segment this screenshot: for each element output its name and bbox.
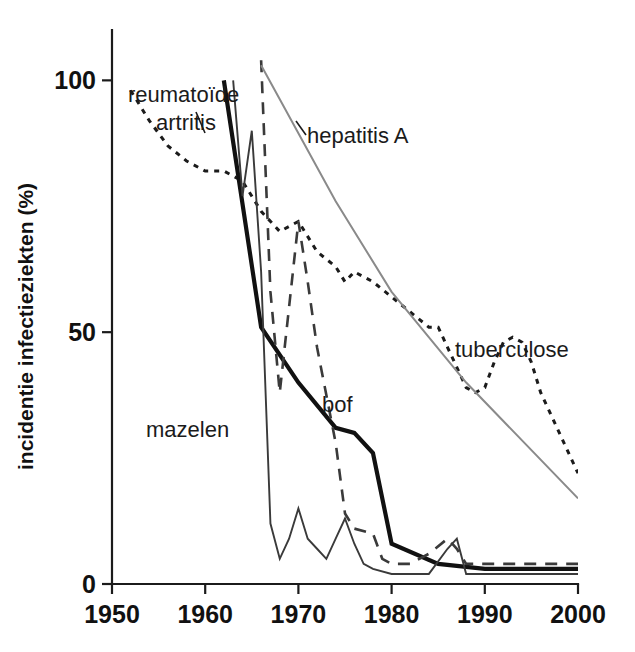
series-label-bof: bof [322,392,353,417]
x-tick-label: 2000 [550,600,606,628]
series-label-mazelen: mazelen [146,417,229,442]
series-label-reumatoide-line2: artritis [156,110,216,135]
y-tick-label: 0 [82,570,96,598]
series-label-tuberculose: tuberculose [455,337,569,362]
chart-svg: 050100 195019601970198019902000 incident… [0,0,635,652]
x-tick-label: 1960 [177,600,233,628]
chart-figure: 050100 195019601970198019902000 incident… [0,0,635,652]
series-line-mazelen [233,80,578,574]
x-axis-ticks: 195019601970198019902000 [84,584,606,628]
x-tick-label: 1990 [457,600,513,628]
y-tick-label: 50 [68,318,96,346]
series-label-hepatitis-a: hepatitis A [307,123,409,148]
x-tick-label: 1950 [84,600,140,628]
x-tick-label: 1980 [364,600,420,628]
y-tick-label: 100 [54,66,96,94]
y-axis-title: incidentie infectieziekten (%) [14,183,37,470]
y-axis-ticks: 050100 [54,66,112,598]
x-tick-label: 1970 [271,600,327,628]
series-line-reumato-de-artritis [224,80,578,569]
axes-group: 050100 195019601970198019902000 [54,30,606,628]
series-label-reumatoide-line1: reumatoïde [128,82,239,107]
